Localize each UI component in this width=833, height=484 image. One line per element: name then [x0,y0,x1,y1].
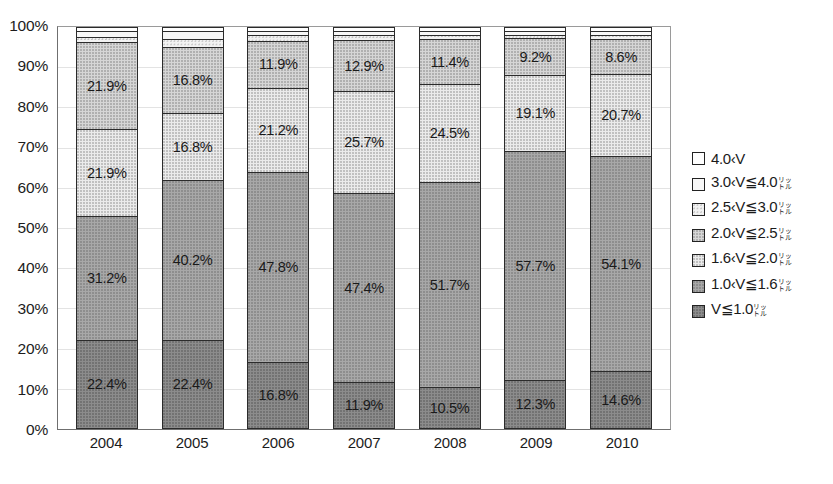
x-axis-tick: 2008 [419,434,481,464]
bar-segment: 19.1% [504,75,566,151]
y-axis-tick: 50% [18,219,48,237]
bar-segment: 12.3% [504,380,566,429]
bar-segment: 16.8% [162,113,224,180]
legend-swatch-icon [692,254,705,267]
y-axis-tick: 60% [18,179,48,197]
legend-item[interactable]: 2.0‹V≦2.5リットル [692,223,832,249]
bar-segment: 11.4% [419,39,481,84]
legend-item[interactable]: 3.0‹V≦4.0リットル [692,172,832,198]
legend-unit-ruby: リットル [778,279,792,293]
bar-segment-label: 47.8% [258,260,298,275]
bar-segment: 8.6% [590,39,652,73]
legend-swatch-icon [692,280,705,293]
bar-segment: 11.9% [247,41,309,88]
legend-swatch-icon [692,305,705,318]
legend-label: 2.0‹V≦2.5リットル [711,224,792,247]
bar-segment-label: 11.4% [430,55,469,70]
bar-segment: 10.5% [419,387,481,429]
legend-swatch-icon [692,203,705,216]
stacked-bar-chart: 0%10%20%30%40%50%60%70%80%90%100% 21.9%2… [0,0,833,484]
bar-segment-label: 25.7% [344,135,384,150]
bar-segment-label: 16.8% [258,388,298,403]
bar-segment-label: 8.6% [605,50,637,65]
bar-segment-label: 9.2% [519,50,551,65]
bar-column[interactable]: 8.6%20.7%54.1%14.6% [590,27,652,429]
bar-segment: 47.4% [333,193,395,381]
legend-unit-ruby: リットル [753,304,767,318]
bar-segment: 25.7% [333,91,395,193]
bar-segment-label: 11.9% [345,398,384,413]
bar-segment-label: 22.4% [87,377,127,392]
bar-segment: 21.2% [247,88,309,172]
x-axis-tick: 2009 [505,434,567,464]
y-axis-tick: 40% [18,259,48,277]
bar-segment-label: 51.7% [430,278,470,293]
bar-segment-label: 24.5% [430,126,470,141]
legend-item[interactable]: 1.6‹V≦2.0リットル [692,248,832,274]
bar-column[interactable]: 21.9%21.9%31.2%22.4% [76,27,138,429]
bar-segment-label: 12.9% [344,59,384,74]
legend-label: 2.5‹V≦3.0リットル [711,198,792,221]
bar-segment-label: 12.3% [516,397,556,412]
bar-column[interactable]: 11.4%24.5%51.7%10.5% [419,27,481,429]
bar-segment: 57.7% [504,151,566,380]
legend-item[interactable]: 4.0‹V [692,146,832,172]
x-axis-tick: 2006 [247,434,309,464]
legend-swatch-icon [692,229,705,242]
bar-segment: 11.9% [333,382,395,429]
bar-segment-label: 47.4% [344,281,384,296]
legend-label: 3.0‹V≦4.0リットル [711,173,792,196]
bar-segment: 24.5% [419,84,481,181]
bar-segment-label: 19.1% [516,106,556,121]
bar-segment: 12.9% [333,40,395,91]
y-axis-tick: 0% [26,421,48,439]
x-axis-tick: 2010 [591,434,653,464]
legend-item[interactable]: 2.5‹V≦3.0リットル [692,197,832,223]
x-axis: 2004200520062007200820092010 [57,434,671,464]
bar-segment: 21.9% [76,42,138,129]
y-axis-tick: 10% [18,381,48,399]
legend-item[interactable]: V≦1.0リットル [692,299,832,325]
legend: 4.0‹V3.0‹V≦4.0リットル2.5‹V≦3.0リットル2.0‹V≦2.5… [692,146,832,325]
legend-item[interactable]: 1.0‹V≦1.6リットル [692,274,832,300]
bar-segment-label: 21.2% [258,123,298,138]
plot-area: 21.9%21.9%31.2%22.4%16.8%16.8%40.2%22.4%… [57,26,671,430]
bar-segment: 9.2% [504,38,566,75]
bar-segment: 16.8% [247,362,309,429]
y-axis-tick: 90% [18,57,48,75]
y-axis-tick: 100% [9,17,48,35]
legend-unit-ruby: リットル [778,228,792,242]
bar-segment-label: 11.9% [259,57,298,72]
bar-segment-label: 57.7% [516,259,556,274]
bar-segment: 22.4% [162,340,224,429]
legend-label: 4.0‹V [711,150,745,167]
bar-column[interactable]: 12.9%25.7%47.4%11.9% [333,27,395,429]
bar-segment [162,31,224,39]
bar-column[interactable]: 11.9%21.2%47.8%16.8% [247,27,309,429]
bar-segment: 47.8% [247,172,309,362]
y-axis-tick: 70% [18,138,48,156]
bar-column[interactable]: 16.8%16.8%40.2%22.4% [162,27,224,429]
bar-segment: 21.9% [76,129,138,216]
y-axis-tick: 80% [18,98,48,116]
bar-segment-label: 21.9% [87,79,127,94]
legend-label: 1.6‹V≦2.0リットル [711,249,792,272]
bar-group: 21.9%21.9%31.2%22.4%16.8%16.8%40.2%22.4%… [58,27,670,429]
legend-unit-ruby: リットル [778,253,792,267]
y-axis-tick: 30% [18,300,48,318]
bar-segment-label: 40.2% [173,253,213,268]
bar-segment-label: 16.8% [173,73,213,88]
y-axis-tick: 20% [18,340,48,358]
legend-unit-ruby: リットル [778,177,792,191]
x-axis-tick: 2005 [161,434,223,464]
bar-segment-label: 20.7% [601,108,641,123]
bar-segment: 14.6% [590,371,652,429]
bar-segment-label: 54.1% [601,257,641,272]
bar-segment [162,39,224,47]
x-axis-tick: 2004 [75,434,137,464]
legend-unit-ruby: リットル [778,202,792,216]
legend-swatch-icon [692,178,705,191]
bar-segment-label: 21.9% [87,166,127,181]
legend-label: 1.0‹V≦1.6リットル [711,275,792,298]
bar-column[interactable]: 9.2%19.1%57.7%12.3% [504,27,566,429]
